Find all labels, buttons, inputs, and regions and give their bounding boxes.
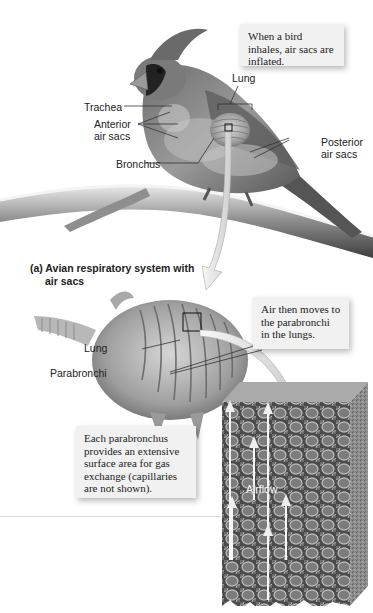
callout-inhale-text: When a bird inhales, air sacs are inflat… [248, 30, 334, 67]
callout-inhale: When a bird inhales, air sacs are inflat… [240, 24, 344, 66]
callout-gas-exchange: Each parabronchus provides an extensive … [76, 426, 196, 498]
lung-closeup [34, 291, 248, 440]
label-posterior-air-sacs-1: Posterior [321, 136, 363, 148]
callout-gas-exchange-text: Each parabronchus provides an extensive … [84, 432, 179, 494]
figure-caption-line2: air sacs [30, 275, 194, 288]
figure-caption-line1: (a) Avian respiratory system with [30, 262, 194, 275]
figure-caption: (a) Avian respiratory system with air sa… [30, 262, 194, 288]
label-anterior-air-sacs-1: Anterior [94, 118, 131, 130]
label-lung-top: Lung [232, 72, 255, 84]
parabronchus-block [222, 382, 368, 613]
label-anterior-air-sacs-2: air sacs [94, 130, 130, 142]
label-posterior-air-sacs-2: air sacs [321, 148, 357, 160]
label-trachea: Trachea [84, 101, 122, 113]
callout-parabronchi-move-text: Air then moves to the parabronchi in the… [261, 303, 340, 340]
label-parabronchi: Parabronchi [50, 367, 107, 379]
label-lung-middle: Lung [84, 342, 107, 354]
label-airflow: Airflow [246, 483, 278, 495]
callout-parabronchi-move: Air then moves to the parabronchi in the… [253, 297, 349, 349]
label-bronchus: Bronchus [116, 158, 160, 170]
divider [0, 516, 222, 517]
